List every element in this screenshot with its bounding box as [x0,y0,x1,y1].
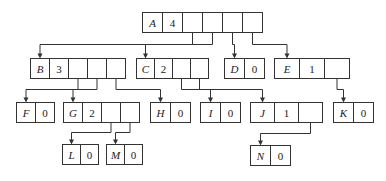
tree-node-g: G2 [64,103,140,123]
tree-node-a: A4 [143,13,263,33]
arrow-head-icon [208,98,213,103]
tree-node-m: M0 [107,145,143,165]
tree-node-j: J1 [251,103,323,123]
tree-node-b: B3 [31,59,126,79]
tree-node-n: N0 [251,146,291,166]
edge-g-l [72,123,112,141]
node-degree: 0 [87,149,93,161]
node-label: G [69,107,77,119]
tree-node-i: I0 [201,103,241,123]
node-degree: 1 [309,63,315,75]
node-degree: 3 [56,63,62,75]
arrow-head-icon [232,54,237,59]
node-degree: 4 [170,17,176,29]
edge-a-d [233,33,235,55]
child-pointer-cell [299,103,323,123]
node-degree: 0 [42,107,48,119]
node-label: D [230,63,239,75]
child-pointer-cell [107,59,126,79]
node-degree: 0 [252,63,258,75]
node-label: A [148,17,156,29]
tree-node-f: F0 [17,103,55,123]
node-label: C [142,63,150,75]
child-pointer-cell [223,13,243,33]
child-pointer-cell [191,59,209,79]
edge-a-b [40,33,193,55]
node-label: B [37,63,44,75]
edge-a-e [253,33,288,55]
node-label: E [283,63,291,75]
edge-j-n [261,123,311,142]
arrow-head-icon [24,98,29,103]
arrow-head-icon [69,140,74,145]
node-degree: 0 [278,150,284,162]
tree-node-c: C2 [137,59,209,79]
node-label: F [22,107,30,119]
tree-node-l: L0 [63,145,99,165]
tree-node-e: E1 [275,59,350,79]
tree-diagram: A4B3C2D0E1F0G2H0I0J1K0L0M0N0 [0,0,386,181]
arrow-head-icon [341,98,346,103]
edge-e-k [337,79,344,99]
child-pointer-cell [69,59,88,79]
node-degree: 1 [284,107,290,119]
edge-b-g [73,79,97,99]
child-pointer-cell [243,13,263,33]
child-pointer-cell [183,13,203,33]
arrow-head-icon [38,54,43,59]
edge-b-h [116,79,161,99]
node-label: N [256,150,265,162]
node-label: K [339,107,348,119]
arrow-head-icon [113,140,118,145]
edge-c-i [182,79,211,99]
child-pointer-cell [102,103,121,123]
arrow-head-icon [260,98,265,103]
node-degree: 0 [228,107,234,119]
child-pointer-cell [173,59,191,79]
node-label: L [67,149,74,161]
arrow-head-icon [71,98,76,103]
arrow-head-icon [158,98,163,103]
arrow-head-icon [258,141,263,146]
child-pointer-cell [203,13,223,33]
edge-a-c [146,33,213,55]
arrow-head-icon [285,54,290,59]
child-pointer-cell [325,59,350,79]
edge-c-j [200,79,263,99]
tree-node-d: D0 [225,59,265,79]
node-degree: 2 [161,63,167,75]
node-degree: 0 [178,107,184,119]
edge-g-m [116,123,131,141]
edges-layer [24,33,347,146]
node-degree: 2 [89,107,95,119]
child-pointer-cell [121,103,140,123]
node-label: M [110,149,121,161]
child-pointer-cell [88,59,107,79]
tree-node-h: H0 [151,103,191,123]
node-degree: 0 [361,107,367,119]
edge-b-f [26,79,78,99]
tree-node-k: K0 [334,103,374,123]
node-degree: 0 [131,149,137,161]
arrow-head-icon [143,54,148,59]
node-label: H [156,107,166,119]
